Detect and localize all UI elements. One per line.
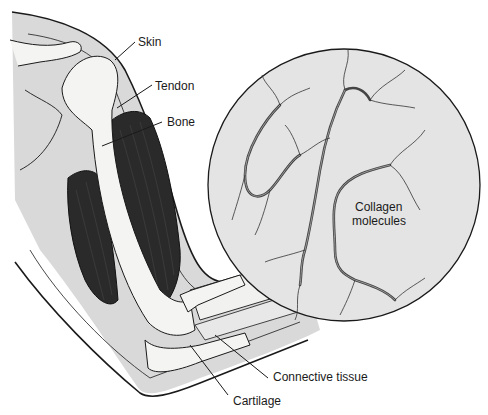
label-skin: Skin bbox=[138, 36, 161, 49]
label-cartilage: Cartilage bbox=[233, 395, 281, 408]
collagen-magnification bbox=[208, 49, 480, 321]
label-collagen-line1: Collagen bbox=[355, 201, 402, 214]
arm-illustration bbox=[0, 0, 488, 415]
label-bone: Bone bbox=[167, 116, 195, 129]
label-tendon: Tendon bbox=[155, 80, 194, 93]
label-connective-tissue: Connective tissue bbox=[273, 371, 368, 384]
label-collagen-line2: molecules bbox=[352, 215, 406, 228]
arm-collagen-diagram: Skin Tendon Bone Collagen molecules Conn… bbox=[0, 0, 488, 415]
